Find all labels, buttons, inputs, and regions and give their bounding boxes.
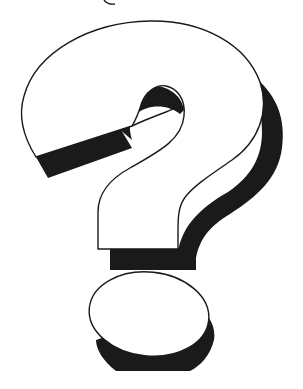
stray-mark: [104, 0, 115, 4]
question-mark-artwork: White outlined question mark with black …: [0, 0, 303, 389]
question-mark-icon: [0, 0, 303, 389]
question-mark-body: [22, 21, 264, 362]
